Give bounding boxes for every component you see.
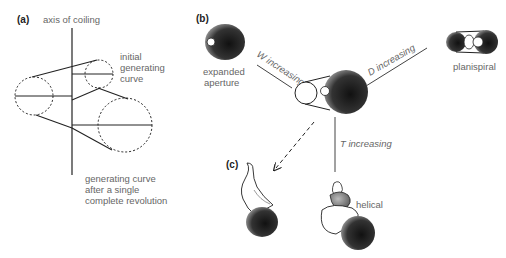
helical-shell	[321, 182, 375, 250]
panel-a: (a) axis of coiling initial generating c…	[15, 14, 168, 206]
panel-c: (c)	[226, 159, 278, 237]
helical-label: helical	[356, 199, 383, 210]
planispiral-shell	[446, 30, 498, 54]
panel-a-label: (a)	[17, 14, 29, 25]
panel-b: (b) expanded aperture W increasing D inc…	[196, 13, 498, 250]
t-increasing-label: T increasing	[340, 138, 392, 149]
horn-shell	[241, 163, 278, 237]
shell-coiling-figure: (a) axis of coiling initial generating c…	[0, 0, 506, 258]
initial-curve-label: initial generating curve	[120, 51, 168, 84]
arrow-to-c	[276, 122, 314, 168]
final-curve-label: generating curve after a single complete…	[85, 173, 167, 206]
expanded-aperture-label: expanded aperture	[203, 66, 247, 88]
axis-of-coiling-label: axis of coiling	[43, 14, 100, 25]
w-increasing-label: W increasing	[255, 48, 308, 88]
expanded-aperture-shell	[205, 24, 245, 60]
panel-c-label: (c)	[226, 159, 238, 170]
planispiral-label: planispiral	[453, 61, 496, 72]
d-increasing-label: D increasing	[366, 41, 418, 77]
panel-b-label: (b)	[196, 13, 209, 24]
